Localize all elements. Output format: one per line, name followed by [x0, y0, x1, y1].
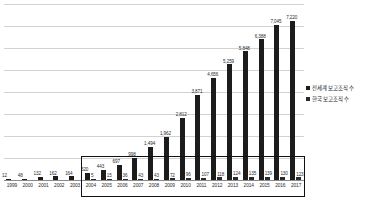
bar-group: 3,871107 [193, 4, 209, 180]
bar-world [38, 177, 43, 180]
x-axis-tick-label: 2014 [241, 183, 257, 188]
x-axis-tick-label: 2006 [115, 183, 131, 188]
bar-korea [249, 177, 254, 180]
x-axis-tick-label: 1999 [4, 183, 20, 188]
bar-value-label-korea: 96 [186, 172, 191, 177]
bar-group: 99843 [130, 4, 146, 180]
bar-value-label-world: 320 [81, 167, 88, 172]
bar-value-label-korea: 124 [233, 171, 240, 176]
bar-chart: 124813216216432054431569736998431,494431… [0, 0, 386, 206]
x-axis-tick-label: 2000 [20, 183, 36, 188]
bar-value-label-world: 2,812 [176, 112, 187, 117]
bar-value-label-korea: 72 [170, 173, 175, 178]
bar-value-label-world: 48 [18, 173, 23, 178]
x-axis-tick-label: 2010 [178, 183, 194, 188]
bar-korea [107, 179, 112, 180]
legend-item[interactable]: 전세계 보고조직 수 [306, 84, 384, 92]
bar-value-label-korea: 15 [107, 173, 112, 178]
bar-value-label-korea: 139 [265, 171, 272, 176]
bar-world [180, 118, 185, 180]
bar-world [22, 179, 27, 180]
x-axis-tick-label: 2009 [162, 183, 178, 188]
x-axis-tick-label: 2001 [36, 183, 52, 188]
bar-group: 6,388139 [257, 4, 273, 180]
x-axis-tick-label: 2003 [67, 183, 83, 188]
x-axis-tick-label: 2015 [257, 183, 273, 188]
bar-group: 12 [4, 4, 20, 180]
bar-group: 5,259124 [225, 4, 241, 180]
bar-value-label-world: 132 [34, 171, 41, 176]
bar-group: 48 [20, 4, 36, 180]
x-axis-tick-label: 2011 [193, 183, 209, 188]
bar-value-label-world: 7,220 [286, 15, 297, 20]
bar-world [69, 176, 74, 180]
x-axis-tick-label: 2008 [146, 183, 162, 188]
plot-area: 124813216216432054431569736998431,494431… [4, 4, 304, 180]
bar-world [132, 158, 137, 180]
bar-korea [91, 179, 96, 180]
bar-value-label-korea: 107 [201, 172, 208, 177]
legend-swatch-icon [306, 86, 310, 90]
bar-value-label-world: 1,962 [160, 131, 171, 136]
bar-value-label-world: 998 [128, 152, 135, 157]
bar-value-label-world: 1,494 [144, 141, 155, 146]
bar-korea [296, 177, 301, 180]
bar-world [164, 137, 169, 180]
bar-korea [217, 177, 222, 180]
bar-world [85, 173, 90, 180]
bar-group: 1,49443 [146, 4, 162, 180]
bar-world [101, 170, 106, 180]
bar-value-label-world: 4,656 [207, 72, 218, 77]
bar-group: 7,220123 [288, 4, 304, 180]
bar-value-label-world: 3,871 [191, 89, 202, 94]
bar-value-label-korea: 43 [138, 173, 143, 178]
x-axis-tick-label: 2004 [83, 183, 99, 188]
bar-world [274, 25, 279, 180]
bar-value-label-korea: 135 [249, 171, 256, 176]
bar-world [148, 147, 153, 180]
bar-korea [123, 179, 128, 180]
bar-value-label-korea: 130 [280, 171, 287, 176]
bar-value-label-korea: 36 [123, 173, 128, 178]
bar-value-label-world: 12 [2, 173, 7, 178]
bar-value-label-world: 5,848 [239, 46, 250, 51]
bar-world [290, 21, 295, 180]
bar-korea [265, 177, 270, 180]
bar-korea [170, 178, 175, 180]
x-axis-tick-label: 2012 [209, 183, 225, 188]
x-axis-tick-label: 2005 [99, 183, 115, 188]
bar-korea [154, 179, 159, 180]
bar-value-label-korea: 118 [217, 172, 224, 177]
bar-group: 44315 [99, 4, 115, 180]
bar-group: 164 [67, 4, 83, 180]
legend-label: 전세계 보고조직 수 [312, 84, 354, 92]
bar-value-label-korea: 5 [91, 173, 93, 178]
x-axis-tick-label: 2002 [51, 183, 67, 188]
bar-world [195, 95, 200, 180]
legend-swatch-icon [306, 97, 310, 101]
bar-group: 5,848135 [241, 4, 257, 180]
bar-korea [201, 178, 206, 180]
bar-world [227, 64, 232, 180]
x-axis-tick-label: 2016 [272, 183, 288, 188]
bar-value-label-world: 5,259 [223, 59, 234, 64]
legend-item[interactable]: 한국 보고조직 수 [306, 95, 384, 103]
legend-label: 한국 보고조직 수 [312, 95, 349, 103]
bar-korea [186, 178, 191, 180]
bar-value-label-world: 164 [65, 171, 72, 176]
bar-value-label-world: 7,045 [270, 19, 281, 24]
bar-value-label-world: 443 [97, 164, 104, 169]
x-axis-tick-label: 2013 [225, 183, 241, 188]
x-axis-tick-label: 2017 [288, 183, 304, 188]
bar-value-label-world: 162 [49, 171, 56, 176]
bar-korea [233, 177, 238, 180]
bar-world [211, 78, 216, 180]
bar-value-label-world: 6,388 [255, 34, 266, 39]
bars-layer: 124813216216432054431569736998431,494431… [4, 4, 304, 180]
chart-legend: 전세계 보고조직 수한국 보고조직 수 [306, 84, 384, 106]
bar-world [259, 39, 264, 180]
bar-group: 4,656118 [209, 4, 225, 180]
bar-world [6, 179, 11, 180]
x-axis-labels: 1999200020012002200320042005200620072008… [4, 181, 304, 195]
bar-korea [280, 177, 285, 180]
